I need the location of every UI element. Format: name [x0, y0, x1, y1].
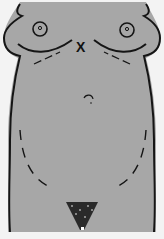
incision-marker: X — [76, 40, 85, 54]
torso-body — [4, 2, 161, 232]
torso-illustration — [0, 0, 164, 239]
